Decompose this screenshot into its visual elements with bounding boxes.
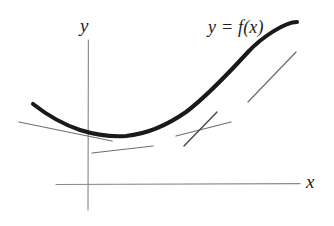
figure-canvas: y x y = f(x) — [0, 0, 334, 226]
graph-svg — [0, 0, 334, 226]
function-curve-group — [33, 22, 297, 136]
function-curve — [33, 22, 297, 136]
x-axis-line — [56, 184, 300, 185]
y-axis-label: y — [80, 16, 88, 35]
tangent-mid-right-positive-slope-line — [176, 122, 231, 136]
axes-group — [56, 40, 300, 210]
tangent-upper-right-steep-line — [248, 52, 296, 102]
x-axis-label: x — [306, 172, 314, 191]
curve-equation-label: y = f(x) — [208, 18, 264, 36]
tangent-lines-group — [19, 52, 296, 153]
tangent-minimum-horizontal-line — [92, 146, 153, 153]
tangent-right-steep-line — [184, 112, 217, 146]
